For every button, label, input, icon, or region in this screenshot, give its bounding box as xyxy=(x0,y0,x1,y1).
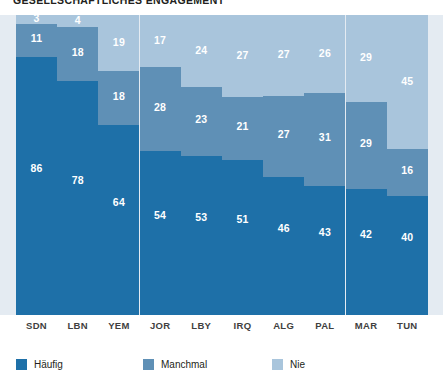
bar-segment: 27 xyxy=(222,15,263,97)
bar-segment-value: 18 xyxy=(72,47,84,58)
bar-segment-value: 19 xyxy=(113,37,125,48)
bar-segment-value: 29 xyxy=(360,138,372,149)
bar-segment: 40 xyxy=(387,196,428,315)
bar-segment: 4 xyxy=(57,15,98,27)
bar-segment-value: 21 xyxy=(236,121,248,132)
bar-column: 172854 xyxy=(140,15,181,315)
bar-column: 272746 xyxy=(263,15,304,315)
bar-column: 31186 xyxy=(16,15,57,315)
bar-segment: 27 xyxy=(263,96,304,177)
bar-segment-value: 17 xyxy=(154,35,166,46)
bar-segment-value: 29 xyxy=(360,52,372,63)
bar-segment: 29 xyxy=(346,15,387,102)
bar-segment-value: 3 xyxy=(33,13,39,24)
x-tick-label-jor: JOR xyxy=(140,319,181,333)
bar-segment: 46 xyxy=(263,177,304,315)
bar-segment: 29 xyxy=(346,102,387,189)
x-tick-label-tun: TUN xyxy=(387,319,428,333)
bar-segment-value: 40 xyxy=(401,232,413,243)
x-tick-label-alg: ALG xyxy=(263,319,304,333)
bar-segment: 17 xyxy=(140,15,181,67)
bar-segment-value: 11 xyxy=(31,33,43,44)
x-tick-label-yem: YEM xyxy=(98,319,139,333)
legend-label: Manchmal xyxy=(161,359,207,370)
bar-segment-value: 24 xyxy=(195,45,207,56)
bar-segment-value: 27 xyxy=(278,49,290,60)
bar-segment: 64 xyxy=(98,125,139,315)
legend-swatch-icon xyxy=(272,359,283,370)
legend-item-hufig: Häufig xyxy=(16,356,63,372)
bar-segment: 45 xyxy=(387,15,428,149)
bar-segment: 19 xyxy=(98,15,139,71)
bar-segment-value: 78 xyxy=(72,175,84,186)
bar-column: 41878 xyxy=(57,15,98,315)
x-tick-label-lby: LBY xyxy=(181,319,222,333)
legend-swatch-icon xyxy=(16,359,27,370)
bar-segment: 3 xyxy=(16,15,57,24)
bar-segment: 86 xyxy=(16,57,57,315)
bar-column: 191864 xyxy=(98,15,139,315)
bar-segment-value: 43 xyxy=(319,227,331,238)
bar-column: 272151 xyxy=(222,15,263,315)
legend-item-nie: Nie xyxy=(272,356,305,372)
bar-segment: 51 xyxy=(222,160,263,315)
bar-segment-value: 86 xyxy=(30,163,42,174)
bar-segment: 31 xyxy=(304,93,345,186)
bar-column: 451640 xyxy=(387,15,428,315)
legend-label: Häufig xyxy=(34,359,63,370)
bar-segment-value: 51 xyxy=(236,214,248,225)
bar-segment: 54 xyxy=(140,151,181,315)
bar-column: 263143 xyxy=(304,15,345,315)
bar-segment: 26 xyxy=(304,15,345,93)
bar-segment-value: 16 xyxy=(401,165,413,176)
x-axis-tick-labels: SDNLBNYEMJORLBYIRQALGPALMARTUN xyxy=(0,319,443,337)
bar-segment-value: 4 xyxy=(75,15,81,26)
x-tick-label-pal: PAL xyxy=(304,319,345,333)
x-tick-label-sdn: SDN xyxy=(16,319,57,333)
bar-segment-value: 31 xyxy=(319,132,331,143)
bar-segment-value: 26 xyxy=(319,48,331,59)
bar-segment: 23 xyxy=(181,87,222,156)
bar-segment-value: 28 xyxy=(154,102,166,113)
bar-segment: 11 xyxy=(16,24,57,57)
bar-segment-value: 18 xyxy=(113,91,125,102)
stacked-bar-chart: GESELLSCHAFTLICHES ENGAGEMENT 3118641878… xyxy=(0,0,443,389)
legend-swatch-icon xyxy=(143,359,154,370)
bar-segment: 78 xyxy=(57,81,98,315)
bar-segment: 27 xyxy=(263,15,304,96)
bar-segment-value: 46 xyxy=(278,223,290,234)
bar-segment: 53 xyxy=(181,156,222,315)
x-tick-label-mar: MAR xyxy=(346,319,387,333)
bar-segment: 42 xyxy=(346,189,387,315)
bar-segment-value: 23 xyxy=(195,114,207,125)
bar-segment-value: 53 xyxy=(195,212,207,223)
plot-area: 3118641878191864172854242353272151272746… xyxy=(0,15,443,315)
bar-segment-value: 27 xyxy=(236,50,248,61)
bar-segment: 18 xyxy=(98,71,139,124)
chart-title: GESELLSCHAFTLICHES ENGAGEMENT xyxy=(13,0,224,7)
bar-segment-value: 45 xyxy=(401,76,413,87)
legend-item-manchmal: Manchmal xyxy=(143,356,207,372)
bar-segment-value: 64 xyxy=(113,197,125,208)
bar-segment: 24 xyxy=(181,15,222,87)
legend-label: Nie xyxy=(290,359,305,370)
bar-segment: 18 xyxy=(57,27,98,81)
bar-segment-value: 54 xyxy=(154,210,166,221)
chart-legend: HäufigManchmalNie xyxy=(0,356,443,376)
bar-segment: 21 xyxy=(222,97,263,161)
x-tick-label-irq: IRQ xyxy=(222,319,263,333)
x-tick-label-lbn: LBN xyxy=(57,319,98,333)
bar-column: 242353 xyxy=(181,15,222,315)
bar-segment-value: 42 xyxy=(360,229,372,240)
bar-segment-value: 27 xyxy=(278,129,290,140)
bar-column: 292942 xyxy=(346,15,387,315)
bar-segment: 43 xyxy=(304,186,345,315)
bar-segment: 16 xyxy=(387,149,428,197)
bar-segment: 28 xyxy=(140,67,181,152)
